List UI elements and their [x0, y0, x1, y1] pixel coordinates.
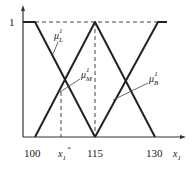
x-tick-115: 115 — [87, 147, 104, 159]
membership-chart: 1 μL1 μM1 μB1 100 x1* 115 130 x1 — [0, 0, 192, 173]
leaders — [53, 42, 148, 100]
x-tick-x-star: x1* — [57, 145, 71, 162]
x-tick-130: 130 — [146, 147, 163, 159]
label-B: μB1 — [148, 70, 159, 87]
x-tick-100: 100 — [24, 147, 41, 159]
label-M: μM1 — [80, 66, 93, 83]
y-tick-1: 1 — [9, 16, 15, 28]
axes — [21, 5, 186, 139]
leader-B — [113, 83, 148, 100]
label-L: μL1 — [53, 27, 63, 44]
x-axis-label: x1 — [172, 148, 181, 162]
y-axis-arrow-icon — [21, 5, 25, 11]
x-axis-arrow-icon — [180, 135, 186, 139]
leader-L — [53, 42, 58, 54]
